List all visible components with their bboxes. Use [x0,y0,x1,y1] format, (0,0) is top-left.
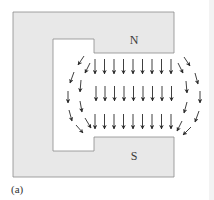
south-pole-label: S [131,150,138,162]
north-pole-label: N [130,34,139,46]
fringe-left-inner [80,63,91,128]
page-edge-strip [209,0,214,200]
fringe-right-outer [183,57,200,135]
field-row-top [95,59,171,74]
magnet-body [13,12,174,177]
fringe-left-outer [68,56,84,133]
magnet-svg [0,0,214,200]
field-row-middle [96,86,172,101]
field-arrows [68,56,200,135]
field-row-bottom [95,114,171,129]
fringe-right-inner [177,63,187,131]
horseshoe-magnet-diagram: N S (a) [0,0,214,200]
figure-caption: (a) [11,184,23,195]
